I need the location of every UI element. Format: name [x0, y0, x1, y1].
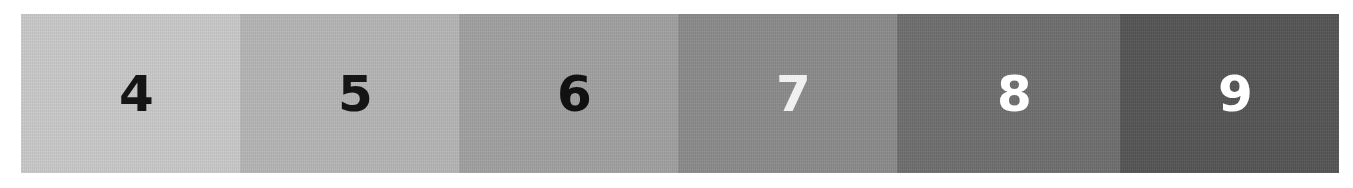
- swatch-label: 9: [1218, 69, 1253, 119]
- swatch-8: 8: [897, 14, 1120, 173]
- swatch-label: 8: [997, 69, 1032, 119]
- swatch-7: 7: [678, 14, 897, 173]
- swatch-5: 5: [240, 14, 459, 173]
- swatch-label: 5: [338, 69, 373, 119]
- swatch-6: 6: [459, 14, 678, 173]
- swatch-9: 9: [1120, 14, 1339, 173]
- gray-value-scale: 4 5 6 7 8 9: [21, 14, 1339, 173]
- swatch-label: 4: [119, 69, 154, 119]
- swatch-label: 7: [776, 69, 811, 119]
- swatch-label: 6: [557, 69, 592, 119]
- swatch-4: 4: [21, 14, 240, 173]
